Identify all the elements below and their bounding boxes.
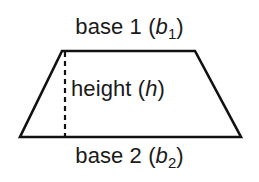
height-label-suffix: )	[158, 76, 165, 101]
trapezoid-figure: base 1 (b1) height (h) base 2 (b2)	[0, 0, 259, 182]
base-2-label-prefix: base 2 (	[75, 143, 155, 168]
height-variable: h	[145, 76, 157, 101]
base-2-label: base 2 (b2)	[0, 145, 259, 171]
base-1-label: base 1 (b1)	[0, 16, 259, 42]
base-1-variable: b	[156, 14, 168, 39]
base-2-variable: b	[156, 143, 168, 168]
base-1-label-suffix: )	[176, 14, 183, 39]
height-label: height (h)	[71, 78, 165, 100]
height-label-prefix: height (	[71, 76, 145, 101]
base-2-label-suffix: )	[176, 143, 183, 168]
base-1-label-prefix: base 1 (	[75, 14, 155, 39]
